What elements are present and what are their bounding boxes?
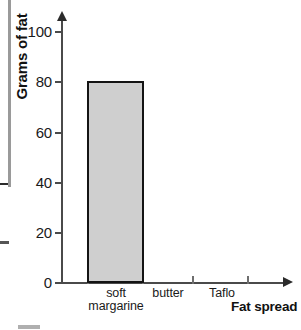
- y-axis-tick-80: [55, 81, 62, 83]
- page-crop-dash-artifact: [0, 241, 9, 244]
- y-axis-tick-100: [55, 31, 62, 33]
- y-axis-tick-label-40: 40: [6, 175, 52, 190]
- page-crop-bottom-artifact: [18, 325, 40, 329]
- bar-chart-figure: 100 80 60 40 20 0 Grams of fat soft marg…: [0, 0, 301, 330]
- bar-soft-margarine: [87, 81, 144, 283]
- y-axis-tick-label-20: 20: [6, 225, 52, 240]
- y-axis-tick-0: [55, 282, 62, 284]
- x-axis-category-label-line2: margarine: [76, 300, 156, 313]
- y-axis-tick-20: [55, 232, 62, 234]
- x-axis-category-label-butter: butter: [138, 287, 198, 300]
- y-axis-tick-label-60: 60: [6, 125, 52, 140]
- x-axis-tick-3: [192, 276, 194, 284]
- x-axis-tick-4: [247, 276, 249, 284]
- x-axis-category-label-line1: Taflo: [209, 286, 235, 300]
- y-axis-tick-40: [55, 182, 62, 184]
- y-axis-tick-60: [55, 132, 62, 134]
- x-axis-title: Fat spread: [231, 299, 297, 314]
- arrow-up-icon: [57, 11, 67, 21]
- y-axis-tick-label-0: 0: [6, 275, 52, 290]
- x-axis-category-label-line1: soft: [106, 286, 126, 300]
- x-axis-category-label-line1: butter: [152, 286, 183, 300]
- y-axis-title: Grams of fat: [13, 11, 30, 103]
- arrow-right-icon: [283, 277, 293, 287]
- y-axis-line: [61, 18, 63, 284]
